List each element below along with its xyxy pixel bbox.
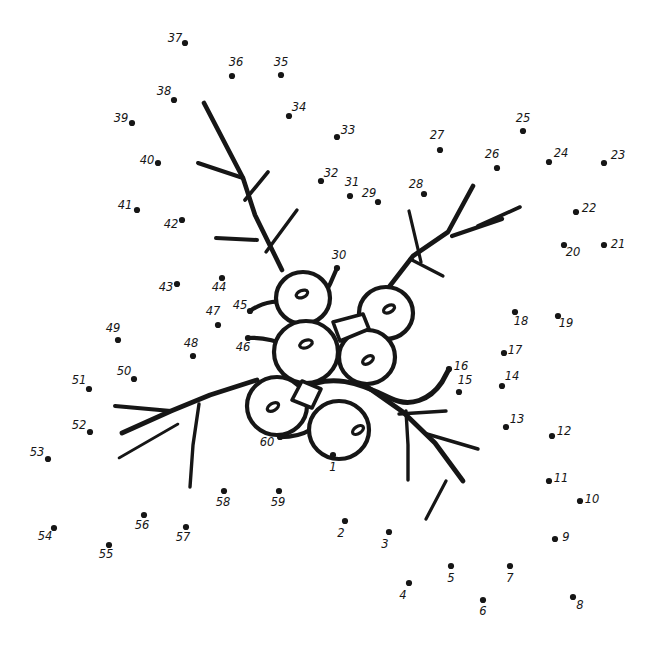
dot-number-label-20: 20 <box>566 245 581 259</box>
dot-marker-37[interactable] <box>182 40 188 46</box>
dot-marker-59[interactable] <box>276 488 282 494</box>
dot-number-label-50: 50 <box>117 364 132 378</box>
dot-marker-42[interactable] <box>179 217 185 223</box>
dot-marker-50[interactable] <box>131 376 137 382</box>
dot-number-label-7: 7 <box>506 571 514 585</box>
dot-number-label-12: 12 <box>557 424 572 438</box>
dot-number-label-41: 41 <box>118 198 133 212</box>
dot-marker-2[interactable] <box>342 518 348 524</box>
puzzle-dot-1[interactable]: 1 <box>329 452 336 474</box>
berry-top-left <box>276 272 330 324</box>
dot-marker-48[interactable] <box>190 353 196 359</box>
dot-marker-28[interactable] <box>421 191 427 197</box>
dot-marker-26[interactable] <box>494 165 500 171</box>
dot-number-label-49: 49 <box>106 321 121 335</box>
dot-number-label-31: 31 <box>345 175 360 189</box>
dot-marker-15[interactable] <box>456 389 462 395</box>
dot-marker-4[interactable] <box>406 580 412 586</box>
dot-marker-40[interactable] <box>155 160 161 166</box>
dot-marker-39[interactable] <box>129 120 135 126</box>
dot-marker-35[interactable] <box>278 72 284 78</box>
dot-marker-11[interactable] <box>546 478 552 484</box>
dot-marker-13[interactable] <box>503 424 509 430</box>
dot-marker-8[interactable] <box>570 594 576 600</box>
dot-marker-58[interactable] <box>221 488 227 494</box>
dot-number-label-37: 37 <box>168 31 183 45</box>
dot-marker-10[interactable] <box>577 498 583 504</box>
puzzle-dot-5[interactable]: 5 <box>447 563 454 585</box>
dot-number-label-10: 10 <box>585 492 600 506</box>
dot-marker-5[interactable] <box>448 563 454 569</box>
branch-upper-left-twig3 <box>216 238 257 240</box>
berry-lower-right <box>309 401 369 459</box>
dot-marker-16[interactable] <box>446 366 452 372</box>
dot-marker-1[interactable] <box>330 452 336 458</box>
dot-number-label-36: 36 <box>229 55 244 69</box>
dot-number-label-59: 59 <box>271 495 286 509</box>
dot-number-label-44: 44 <box>212 280 227 294</box>
dot-marker-38[interactable] <box>171 97 177 103</box>
dot-number-label-2: 2 <box>337 526 344 540</box>
dot-number-label-32: 32 <box>324 166 339 180</box>
dot-marker-6[interactable] <box>480 597 486 603</box>
dot-number-label-27: 27 <box>430 128 445 142</box>
dot-number-label-17: 17 <box>508 343 523 357</box>
dot-number-label-19: 19 <box>559 316 574 330</box>
puzzle-dot-6[interactable]: 6 <box>479 597 486 618</box>
dot-number-label-56: 56 <box>135 518 150 532</box>
dot-number-label-30: 30 <box>332 248 347 262</box>
dot-number-label-18: 18 <box>514 314 529 328</box>
dot-marker-17[interactable] <box>501 350 507 356</box>
dot-marker-14[interactable] <box>499 383 505 389</box>
dot-marker-36[interactable] <box>229 73 235 79</box>
dot-marker-53[interactable] <box>45 456 51 462</box>
dot-number-label-34: 34 <box>292 100 307 114</box>
connect-the-dots-page: 1234567891011121314151617181920212223242… <box>0 0 661 650</box>
dot-marker-43[interactable] <box>174 281 180 287</box>
dot-number-label-48: 48 <box>184 336 199 350</box>
dot-number-label-21: 21 <box>611 237 626 251</box>
branch-right-twig2 <box>406 411 408 480</box>
dot-marker-22[interactable] <box>573 209 579 215</box>
dot-marker-12[interactable] <box>549 433 555 439</box>
dot-marker-24[interactable] <box>546 159 552 165</box>
dot-marker-25[interactable] <box>520 128 526 134</box>
dot-number-label-52: 52 <box>72 418 87 432</box>
dot-marker-9[interactable] <box>552 536 558 542</box>
dot-number-label-55: 55 <box>99 547 114 561</box>
dot-marker-31[interactable] <box>347 193 353 199</box>
dot-number-label-35: 35 <box>274 55 289 69</box>
dot-number-label-28: 28 <box>409 177 424 191</box>
dot-marker-7[interactable] <box>507 563 513 569</box>
dot-marker-41[interactable] <box>134 207 140 213</box>
dot-marker-30[interactable] <box>334 265 340 271</box>
dot-number-label-60: 60 <box>260 435 275 449</box>
dot-number-label-24: 24 <box>554 146 569 160</box>
dot-number-label-11: 11 <box>554 471 569 485</box>
berry-center-body <box>274 321 338 383</box>
dot-number-label-51: 51 <box>72 373 87 387</box>
dot-number-label-23: 23 <box>611 148 626 162</box>
dot-marker-33[interactable] <box>334 134 340 140</box>
dot-marker-27[interactable] <box>437 147 443 153</box>
dot-number-label-14: 14 <box>505 369 520 383</box>
dot-marker-60[interactable] <box>277 434 283 440</box>
dot-marker-52[interactable] <box>87 429 93 435</box>
dot-marker-47[interactable] <box>215 322 221 328</box>
dot-marker-49[interactable] <box>115 337 121 343</box>
dot-number-label-39: 39 <box>114 111 129 125</box>
berry-center <box>274 321 338 383</box>
dot-marker-23[interactable] <box>601 160 607 166</box>
dot-number-label-9: 9 <box>562 530 569 544</box>
dot-number-label-33: 33 <box>341 123 356 137</box>
dot-marker-3[interactable] <box>386 529 392 535</box>
dot-number-label-1: 1 <box>329 460 336 474</box>
puzzle-canvas: 1234567891011121314151617181920212223242… <box>0 0 661 650</box>
dot-number-label-38: 38 <box>157 84 172 98</box>
dot-marker-45[interactable] <box>247 308 253 314</box>
dot-number-label-42: 42 <box>164 217 179 231</box>
dot-number-label-3: 3 <box>381 537 388 551</box>
dot-marker-21[interactable] <box>601 242 607 248</box>
dot-marker-51[interactable] <box>86 386 92 392</box>
dot-number-label-46: 46 <box>236 340 251 354</box>
